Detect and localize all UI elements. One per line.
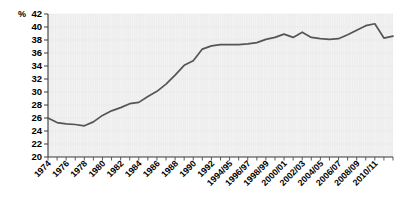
y-tick-label: 38 xyxy=(31,34,42,45)
x-axis: 1974197619781980198219841986198819901992… xyxy=(32,157,393,188)
x-tick-label: 1984 xyxy=(123,158,144,179)
y-tick-label: 30 xyxy=(31,86,42,97)
y-tick-label: 36 xyxy=(31,47,42,58)
y-tick-label: 42 xyxy=(31,8,42,19)
y-tick-label: 28 xyxy=(31,99,42,110)
chart-container: 202224262830323436384042%197419761978198… xyxy=(0,0,410,207)
y-tick-label: 22 xyxy=(31,138,42,149)
x-tick-label: 1988 xyxy=(159,158,180,179)
x-tick-label: 1982 xyxy=(105,158,126,179)
y-axis-unit-label: % xyxy=(18,9,26,19)
x-tick-label: 1986 xyxy=(141,158,162,179)
y-tick-label: 34 xyxy=(31,60,42,71)
x-tick-label: 1976 xyxy=(50,158,71,179)
y-tick-label: 24 xyxy=(31,125,42,136)
y-tick-label: 40 xyxy=(31,21,42,32)
y-axis: 202224262830323436384042% xyxy=(18,8,48,162)
y-tick-label: 20 xyxy=(31,151,42,162)
y-tick-label: 26 xyxy=(31,112,42,123)
y-tick-label: 32 xyxy=(31,73,42,84)
x-tick-label: 1990 xyxy=(177,158,198,179)
line-chart: 202224262830323436384042%197419761978198… xyxy=(0,0,410,207)
x-tick-label: 1978 xyxy=(68,158,89,179)
x-tick-label: 1980 xyxy=(86,158,107,179)
plot-background xyxy=(48,14,393,157)
